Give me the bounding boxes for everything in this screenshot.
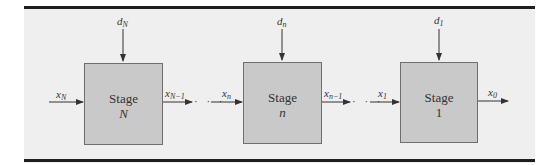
state-label-xN: xN: [56, 88, 66, 104]
stage-index: N: [119, 106, 128, 121]
state-label-x0: x0: [488, 86, 497, 102]
state-label-xN-1: xN−1: [165, 87, 185, 103]
stage-N-box: Stage N: [84, 63, 163, 145]
decision-label-d1: d1: [434, 14, 444, 30]
stage-n-box: Stage n: [243, 62, 322, 144]
state-label-xn-1: xn−1: [324, 87, 342, 103]
stage-index: 1: [436, 105, 443, 120]
decision-label-dN: dN: [117, 15, 128, 31]
stage-title: Stage: [268, 90, 297, 105]
ellipsis-1: · · ·: [194, 96, 226, 106]
stage-title: Stage: [109, 91, 138, 106]
decision-label-dn: dn: [277, 15, 287, 31]
stage-1-box: Stage 1: [400, 62, 478, 143]
ellipsis-2: · · ·: [352, 96, 384, 106]
stage-title: Stage: [425, 90, 454, 105]
stage-index: n: [279, 105, 286, 120]
